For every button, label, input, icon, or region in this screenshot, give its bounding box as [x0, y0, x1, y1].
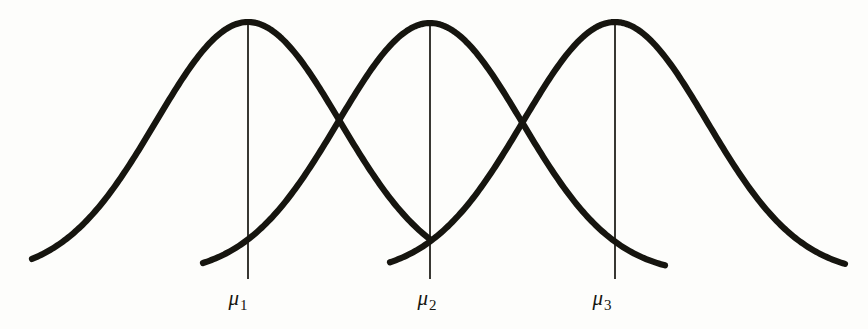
mu-2-glyph: μ — [417, 286, 428, 310]
mu-3-glyph: μ — [592, 286, 603, 310]
normal-curve-2 — [203, 23, 665, 265]
mu-2-subscript: 2 — [429, 297, 437, 313]
mu-3-subscript: 3 — [604, 297, 612, 313]
normal-curve-3 — [390, 22, 845, 264]
normal-curve-1 — [32, 22, 430, 259]
mu-3-label: μ3 — [592, 288, 611, 313]
curve-canvas — [0, 0, 868, 329]
mu-2-label: μ2 — [417, 288, 436, 313]
bell-curves-group — [32, 22, 845, 265]
mu-1-label: μ1 — [228, 288, 247, 313]
mu-1-glyph: μ — [228, 286, 239, 310]
normal-curves-figure: μ1μ2μ3 — [0, 0, 868, 329]
mu-1-subscript: 1 — [240, 297, 248, 313]
